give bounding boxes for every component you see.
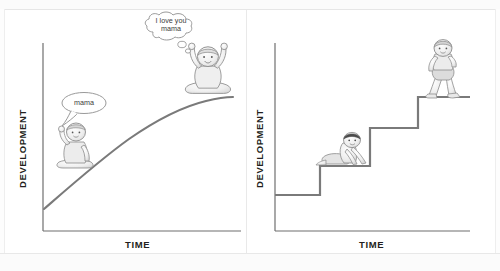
x-axis-label-right: TIME <box>359 239 384 250</box>
figure-top-border <box>0 0 500 10</box>
continuous-chart-svg <box>5 10 246 253</box>
sitting-baby-waving <box>57 123 93 168</box>
stage-development-panel: DEVELOPMENT TIME <box>248 10 495 253</box>
sitting-baby-arms-up <box>185 43 230 93</box>
figure-right-border <box>495 9 500 253</box>
y-axis-label-left: DEVELOPMENT <box>17 109 28 188</box>
y-axis-label-right: DEVELOPMENT <box>254 109 265 188</box>
figure-bottom-border <box>0 253 500 271</box>
crawling-baby <box>316 132 366 165</box>
stair-step-curve <box>275 97 470 195</box>
continuous-development-panel: DEVELOPMENT TIME mama I love you mama <box>5 10 246 253</box>
stage-chart-svg <box>248 10 495 253</box>
walking-toddler <box>426 40 460 98</box>
panel-divider <box>246 10 247 253</box>
speech-bubble-mama <box>62 93 106 127</box>
thought-bubble-i-love-you-mama <box>145 12 192 53</box>
developmental-theories-figure: DEVELOPMENT TIME mama I love you mama <box>0 0 500 271</box>
x-axis-label-left: TIME <box>125 239 150 250</box>
